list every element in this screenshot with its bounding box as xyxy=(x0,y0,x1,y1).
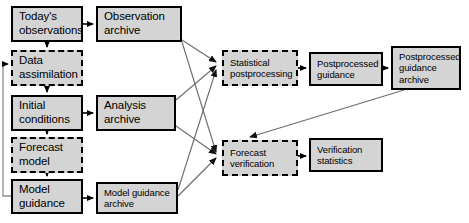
node-label: Postprocessed guidance xyxy=(317,58,379,80)
flowchart-diagram: Today's observations Observation archive… xyxy=(0,0,469,223)
node-observation-archive[interactable]: Observation archive xyxy=(96,6,182,42)
node-forecast-model[interactable]: Forecast model xyxy=(11,137,83,173)
node-label: Forecast model xyxy=(19,141,63,168)
node-statistical-postprocessing[interactable]: Statistical postprocessing xyxy=(222,50,298,86)
edge-observation-archive-to-forecast-verification xyxy=(182,42,216,152)
node-label: Postprocessed guidance archive xyxy=(399,51,461,85)
edge-analysis-archive-to-forecast-verification xyxy=(176,126,216,154)
edge-model-guidance-archive-to-statistical-postprocessing xyxy=(178,70,216,190)
node-label: Today's observations xyxy=(19,10,83,37)
node-postprocessed-guidance-archive[interactable]: Postprocessed guidance archive xyxy=(391,46,461,90)
node-label: Verification statistics xyxy=(317,144,362,166)
node-verification-statistics[interactable]: Verification statistics xyxy=(309,138,383,172)
node-label: Data assimilation xyxy=(19,54,78,81)
node-label: Observation archive xyxy=(104,10,165,37)
node-label: Model guidance archive xyxy=(104,187,170,209)
node-model-guidance-archive[interactable]: Model guidance archive xyxy=(96,182,178,214)
edge-model-guidance-archive-to-forecast-verification xyxy=(178,158,216,196)
edge-model-guidance-feedback-loop xyxy=(3,64,11,196)
node-initial-conditions[interactable]: Initial conditions xyxy=(11,95,83,131)
edge-postprocessed-guidance-archive-to-forecast-verification xyxy=(250,90,404,137)
edge-analysis-archive-to-statistical-postprocessing xyxy=(176,66,216,100)
node-data-assimilation[interactable]: Data assimilation xyxy=(11,50,83,86)
node-label: Statistical postprocessing xyxy=(230,57,293,79)
node-analysis-archive[interactable]: Analysis archive xyxy=(96,95,176,131)
node-todays-observations[interactable]: Today's observations xyxy=(11,6,83,42)
node-model-guidance[interactable]: Model guidance xyxy=(11,179,83,214)
node-label: Analysis archive xyxy=(104,99,146,126)
node-postprocessed-guidance[interactable]: Postprocessed guidance xyxy=(309,52,383,86)
node-label: Initial conditions xyxy=(19,99,70,126)
node-label: Model guidance xyxy=(19,183,65,210)
node-label: Forecast verification xyxy=(230,147,274,169)
node-forecast-verification[interactable]: Forecast verification xyxy=(222,140,298,176)
edge-observation-archive-to-statistical-postprocessing xyxy=(182,40,216,62)
